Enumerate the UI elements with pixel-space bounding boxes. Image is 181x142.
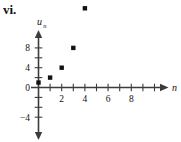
data-point <box>48 75 52 79</box>
x-tick-label-6: 6 <box>106 94 111 104</box>
data-point <box>71 46 75 50</box>
x-tick-label-2: 2 <box>59 94 64 104</box>
data-point <box>36 80 40 84</box>
y-tick-label-minus-4: −4 <box>20 113 30 123</box>
x-tick-label-8: 8 <box>129 94 134 104</box>
data-point <box>60 66 64 70</box>
x-axis-label: n <box>172 82 177 93</box>
y-axis-arrow-down-icon <box>35 132 42 140</box>
sequence-scatter-plot: 2 4 6 8 8 4 0 −4 n u n <box>0 0 181 142</box>
y-tick-label-0: 0 <box>25 83 30 93</box>
x-tick-label-4: 4 <box>83 94 88 104</box>
x-axis-arrow-icon <box>160 84 169 91</box>
data-points <box>36 6 87 85</box>
y-axis-label: u <box>37 16 42 27</box>
y-tick-label-4: 4 <box>25 63 30 73</box>
y-axis-arrow-up-icon <box>35 30 42 38</box>
y-axis-label-subscript: n <box>43 22 46 29</box>
y-tick-label-8: 8 <box>25 43 30 53</box>
data-point <box>83 6 87 10</box>
